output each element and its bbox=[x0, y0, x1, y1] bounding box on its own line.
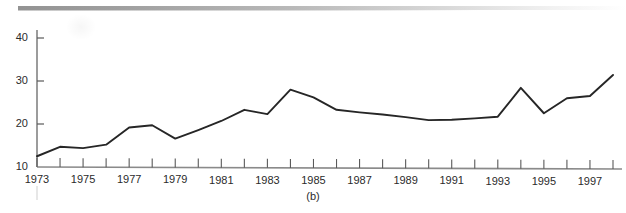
x-axis-tick-label: 1983 bbox=[244, 174, 290, 186]
x-axis-tick-label: 1981 bbox=[198, 174, 244, 186]
x-axis-tick-label: 1987 bbox=[337, 174, 383, 186]
x-axis-tick-label: 1993 bbox=[475, 175, 521, 187]
y-axis-tick-label: 20 bbox=[6, 117, 28, 129]
y-axis-tick-label: 40 bbox=[6, 31, 28, 43]
x-axis-tick-label: 1985 bbox=[290, 174, 336, 186]
x-axis-tick-label: 1973 bbox=[14, 173, 60, 185]
data-series-line bbox=[37, 75, 613, 156]
x-axis-tick-label: 1989 bbox=[383, 174, 429, 186]
x-axis-tick-label: 1997 bbox=[567, 175, 613, 187]
chart-axes bbox=[37, 30, 622, 169]
x-axis-tick-label: 1995 bbox=[521, 175, 567, 187]
figure-panel-b: 10203040 1973197519771979198119831985198… bbox=[0, 0, 626, 213]
x-axis-tick-label: 1975 bbox=[60, 173, 106, 185]
x-axis-tick-label: 1977 bbox=[106, 173, 152, 185]
x-axis-line bbox=[37, 167, 622, 169]
y-axis-tick-label: 10 bbox=[6, 160, 28, 172]
figure-caption: (b) bbox=[283, 190, 343, 202]
y-axis-tick-label: 30 bbox=[6, 74, 28, 86]
x-axis-tick-label: 1979 bbox=[152, 173, 198, 185]
x-axis-tick-label: 1991 bbox=[429, 174, 475, 186]
